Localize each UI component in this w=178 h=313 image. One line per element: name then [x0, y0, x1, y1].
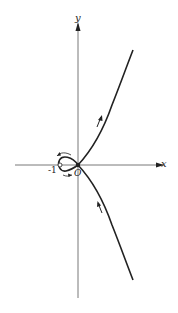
curve-upper-branch: [78, 50, 133, 165]
origin-label: O: [74, 169, 81, 178]
lower-branch-arrow-icon: [97, 201, 102, 213]
x-axis: [15, 163, 164, 168]
y-axis: [76, 22, 81, 298]
curve-lower-branch: [78, 165, 133, 280]
upper-branch-arrow-icon: [97, 115, 103, 127]
tick-label-minus-one: -1: [48, 166, 57, 175]
x-axis-label: x: [161, 159, 167, 169]
y-axis-label: y: [75, 13, 81, 23]
curve-diagram: y x O -1: [0, 0, 178, 313]
y-axis-arrow-icon: [76, 22, 81, 31]
diagram-svg: [0, 0, 178, 313]
point-minus-one: [58, 163, 62, 167]
